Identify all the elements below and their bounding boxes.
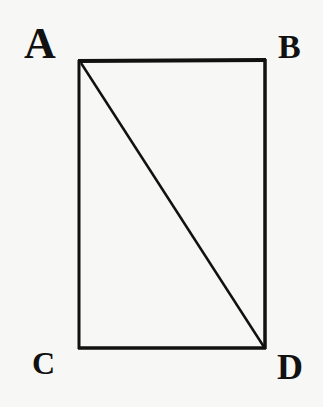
diagonal-ad	[81, 63, 264, 347]
vertex-label-a: A	[24, 22, 56, 66]
vertex-label-b: B	[278, 30, 301, 64]
vertex-label-c: C	[32, 347, 55, 379]
vertex-label-d: D	[277, 349, 303, 385]
edge-ab	[78, 60, 266, 61]
